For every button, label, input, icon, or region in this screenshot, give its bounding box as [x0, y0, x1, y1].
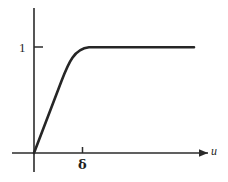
y-axis-tick-label-one: 1: [19, 41, 26, 54]
x-axis-title: u: [211, 145, 217, 157]
chart-figure: 1 δ u: [0, 0, 228, 182]
data-curve-saturating-ramp: [34, 47, 194, 153]
x-axis-tick-label-delta: δ: [78, 158, 87, 171]
plot-canvas: [0, 0, 228, 182]
arrow-right-icon: [199, 149, 208, 156]
